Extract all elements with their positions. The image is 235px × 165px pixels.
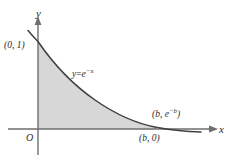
shaded-area-under-curve — [38, 42, 158, 130]
exponential-area-figure: y x O (0, 1) y=e−x (b, e−b) (b, 0) — [0, 0, 235, 165]
point-label-x-axis-at-b: (b, 0) — [139, 134, 160, 144]
curve-equation-label: y=e−x — [72, 68, 93, 80]
point-label-curve-at-b: (b, e−b) — [152, 108, 180, 120]
y-axis-label: y — [36, 8, 41, 19]
point-label-y-intercept: (0, 1) — [4, 41, 25, 51]
figure-canvas — [0, 0, 235, 165]
point-label-curve-at-b-open: (b, e — [152, 109, 169, 119]
x-axis-arrowhead — [209, 126, 218, 133]
point-label-curve-at-b-close: ) — [177, 109, 180, 119]
point-label-curve-at-b-exponent: −b — [169, 107, 177, 114]
x-axis-label: x — [219, 124, 224, 135]
curve-equation-exponent: −x — [86, 67, 94, 74]
origin-label: O — [26, 133, 33, 143]
